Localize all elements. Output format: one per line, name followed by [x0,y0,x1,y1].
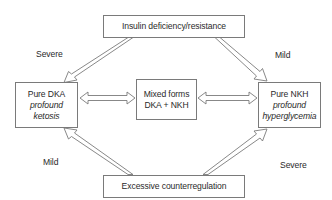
double-arrow-center-right [198,92,257,104]
edge-label-top-right: Mild [275,50,290,60]
edge-label-bottom-right: Severe [280,160,307,170]
node-pure-dka-line3: ketosis [33,111,59,122]
node-insulin-deficiency: Insulin deficiency/resistance [103,15,245,38]
edge-label-bottom-left: Mild [43,157,58,167]
diagram-canvas: Insulin deficiency/resistance Pure DKA p… [0,0,332,200]
node-mixed-forms-line2: DKA + NKH [144,100,188,111]
arrow-top-to-left [64,38,133,83]
arrow-bottom-to-left [64,128,133,175]
arrow-bottom-to-right [203,129,267,175]
arrow-top-to-right [215,38,267,82]
node-mixed-forms: Mixed forms DKA + NKH [136,79,197,120]
node-pure-nkh-line2: profound [273,100,306,111]
edge-label-top-left: Severe [36,49,63,59]
node-excessive-counterregulation: Excessive counterregulation [103,175,245,198]
node-mixed-forms-line1: Mixed forms [144,89,190,100]
node-pure-nkh-line3: hyperglycemia [262,111,316,122]
node-pure-nkh-title: Pure NKH [271,89,309,100]
node-pure-dka: Pure DKA profound ketosis [15,82,78,128]
node-pure-nkh: Pure NKH profound hyperglycemia [258,82,321,128]
node-pure-dka-title: Pure DKA [28,89,65,100]
node-pure-dka-line2: profound [30,100,63,111]
node-excessive-counterregulation-label: Excessive counterregulation [122,181,227,192]
node-insulin-deficiency-label: Insulin deficiency/resistance [122,21,226,32]
double-arrow-left-center [80,92,135,104]
